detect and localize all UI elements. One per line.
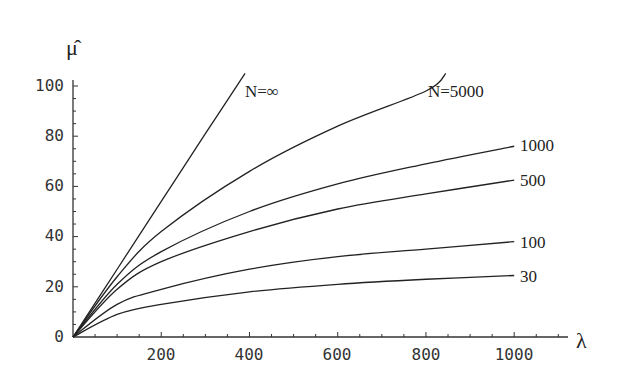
curve-label-100: 100 [520, 233, 546, 252]
curves [73, 73, 514, 337]
x-axis-title: λ [576, 328, 587, 353]
y-axis-title: μ̂ [66, 35, 82, 60]
curve-label-30: 30 [520, 267, 537, 286]
curve-label-1000: 1000 [520, 136, 554, 155]
curve-N=30 [73, 276, 514, 337]
axis-ticks [73, 86, 558, 337]
x-tick-label: 200 [147, 345, 176, 364]
y-tick-label: 0 [54, 327, 64, 346]
curve-N=∞ [73, 73, 245, 337]
y-tick-label: 100 [35, 76, 64, 95]
x-tick-label: 800 [412, 345, 441, 364]
y-tick-label: 80 [45, 126, 64, 145]
y-tick-label: 20 [45, 277, 64, 296]
curve-N=5000 [73, 73, 446, 337]
y-tick-label: 40 [45, 226, 64, 245]
line-chart: 0 20 40 60 80 100 200 400 600 800 1000 λ… [0, 0, 618, 388]
x-tick-label: 1000 [495, 345, 534, 364]
curve-N=500 [73, 180, 514, 337]
curve-N=100 [73, 242, 514, 337]
x-tick-label: 400 [235, 345, 264, 364]
curve-label-500: 500 [520, 171, 546, 190]
y-tick-label: 60 [45, 176, 64, 195]
curve-label-inf: N=∞ [245, 82, 279, 101]
curve-label-5000: N=5000 [428, 82, 484, 101]
x-tick-label: 600 [323, 345, 352, 364]
